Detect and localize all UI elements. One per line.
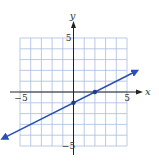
y-tick-label-5: 5 bbox=[66, 33, 72, 43]
y-axis-label: y bbox=[69, 10, 76, 21]
x-tick-label-5: 5 bbox=[124, 93, 130, 103]
x-axis-arrow-icon bbox=[136, 90, 143, 95]
coordinate-plane: x y −5 5 5 −5 bbox=[0, 0, 159, 161]
y-tick-label-neg5: −5 bbox=[62, 141, 76, 151]
x-tick-label-neg5: −5 bbox=[14, 93, 28, 103]
marked-point bbox=[71, 101, 75, 105]
y-axis-arrow-icon bbox=[71, 21, 76, 28]
x-axis-label: x bbox=[145, 86, 151, 97]
marked-point bbox=[93, 90, 97, 94]
